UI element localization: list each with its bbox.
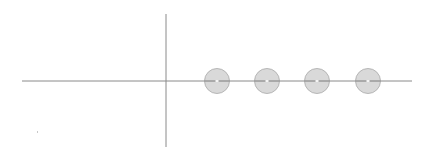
speck-mark: [37, 131, 38, 133]
circle-center-mark: [216, 80, 219, 82]
number-line-diagram: [0, 0, 431, 154]
circle-center-mark: [316, 80, 319, 82]
circle-center-mark: [367, 80, 370, 82]
circle-center-mark: [266, 80, 269, 82]
